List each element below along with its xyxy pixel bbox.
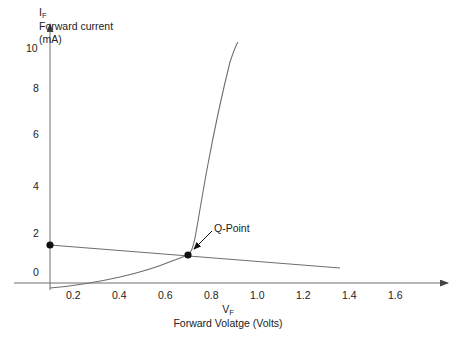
y-tick-label: 0 (33, 266, 39, 279)
x-tick-label: 0.6 (158, 289, 173, 302)
y-axis-name: Forward current (39, 20, 113, 32)
x-tick-label: 0.4 (112, 289, 127, 302)
y-tick-label: 8 (33, 82, 39, 95)
x-tick-label: 0.2 (66, 289, 81, 302)
y-tick-label: 4 (33, 180, 39, 193)
y-axis-title: IF Forward current (mA) (39, 6, 113, 46)
x-tick-label: 1.0 (250, 289, 265, 302)
q-point-label: Q-Point (214, 222, 250, 235)
y-tick-label: 6 (33, 128, 39, 141)
diode-load-line-chart: 10 8 6 4 2 0 0.2 0.4 0.6 0.8 1.0 1.2 1.4… (0, 0, 459, 340)
y-axis-symbol-subscript: F (42, 11, 47, 20)
diode-curve (50, 42, 238, 288)
load-line-y-intercept-dot (46, 241, 53, 248)
q-point-dot (184, 251, 191, 258)
y-axis-units: (mA) (39, 33, 62, 45)
y-tick-label: 2 (33, 227, 39, 240)
x-tick-label: 1.6 (388, 289, 403, 302)
q-point-arrow (194, 231, 212, 249)
y-tick-label: 10 (26, 42, 38, 55)
x-axis-name: Forward Volatge (Volts) (173, 317, 282, 329)
x-tick-label: 0.8 (204, 289, 219, 302)
x-tick-label: 1.2 (296, 289, 311, 302)
x-axis-title: VF Forward Volatge (Volts) (153, 303, 303, 330)
x-axis-symbol-subscript: F (229, 308, 234, 317)
x-tick-label: 1.4 (342, 289, 357, 302)
